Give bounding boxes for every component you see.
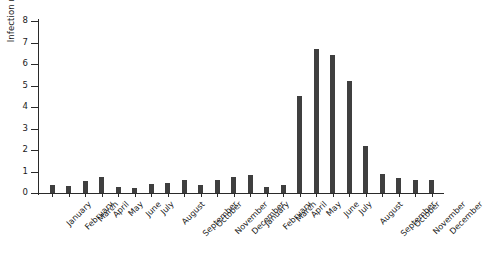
bar <box>314 49 319 193</box>
y-tick-label: 1 <box>0 167 28 176</box>
y-tick-label: 4 <box>0 102 28 111</box>
y-tick-label: 7 <box>0 38 28 47</box>
bar <box>281 185 286 193</box>
bar <box>149 184 154 193</box>
x-tick-mark <box>85 193 86 197</box>
bar-series <box>38 21 444 193</box>
y-tick-label: 0 <box>0 188 28 197</box>
bar <box>231 177 236 193</box>
x-tick-mark <box>217 193 218 197</box>
x-tick-label: August <box>179 199 206 226</box>
x-tick-mark <box>52 193 53 197</box>
bar <box>215 180 220 193</box>
x-tick-mark <box>201 193 202 197</box>
y-tick-mark <box>31 150 38 151</box>
bar <box>165 183 170 193</box>
x-tick-label: July <box>158 199 175 216</box>
y-tick-mark <box>31 86 38 87</box>
bar <box>363 146 368 193</box>
x-tick-mark <box>316 193 317 197</box>
x-tick-mark <box>333 193 334 197</box>
x-tick-mark <box>432 193 433 197</box>
x-tick-mark <box>168 193 169 197</box>
x-tick-mark <box>250 193 251 197</box>
x-tick-mark <box>118 193 119 197</box>
x-tick-mark <box>349 193 350 197</box>
x-tick-label: May <box>126 199 145 218</box>
bar <box>182 180 187 193</box>
y-axis-label: Infection rate <box>6 0 16 58</box>
y-tick-mark <box>31 193 38 194</box>
x-tick-mark <box>283 193 284 197</box>
bar <box>83 181 88 193</box>
bar <box>248 175 253 193</box>
x-tick-mark <box>267 193 268 197</box>
x-tick-mark <box>366 193 367 197</box>
bar <box>198 185 203 193</box>
bar <box>429 180 434 193</box>
y-tick-mark <box>31 43 38 44</box>
y-tick-label: 5 <box>0 81 28 90</box>
bar <box>396 178 401 193</box>
y-tick-label: 2 <box>0 145 28 154</box>
y-tick-mark <box>31 64 38 65</box>
y-tick-mark <box>31 21 38 22</box>
x-tick-mark <box>184 193 185 197</box>
x-tick-mark <box>102 193 103 197</box>
y-tick-label: 8 <box>0 16 28 25</box>
bar <box>413 180 418 193</box>
bar <box>99 177 104 193</box>
y-tick-label: 3 <box>0 124 28 133</box>
y-tick-mark <box>31 129 38 130</box>
x-tick-mark <box>300 193 301 197</box>
x-tick-label: August <box>377 199 404 226</box>
x-tick-mark <box>399 193 400 197</box>
bar <box>380 174 385 193</box>
x-tick-mark <box>382 193 383 197</box>
x-tick-mark <box>234 193 235 197</box>
y-tick-mark <box>31 107 38 108</box>
bar <box>66 186 71 193</box>
bar <box>347 81 352 193</box>
bar <box>50 185 55 193</box>
y-tick-label: 6 <box>0 59 28 68</box>
y-tick-mark <box>31 172 38 173</box>
bar <box>330 55 335 193</box>
x-tick-label: May <box>324 199 343 218</box>
x-tick-mark <box>135 193 136 197</box>
x-tick-mark <box>69 193 70 197</box>
x-tick-mark <box>151 193 152 197</box>
bar <box>297 96 302 193</box>
x-tick-label: July <box>356 199 373 216</box>
x-tick-mark <box>415 193 416 197</box>
